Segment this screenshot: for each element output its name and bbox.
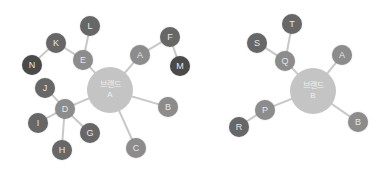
node-m: M (170, 56, 190, 76)
hub-label: A (107, 90, 112, 100)
hub-title: 브랜드 (303, 81, 324, 91)
node-b: B (158, 97, 178, 117)
node-p: P (255, 100, 275, 120)
node-h: H (52, 140, 72, 160)
node-f: F (160, 27, 180, 47)
brand-network-diagram: 브랜드AABCDEFGHIJKLMN브랜드BABQPSTR (0, 0, 388, 174)
node-q: Q (275, 51, 295, 71)
node-b: B (348, 112, 368, 132)
hub-label: B (310, 91, 315, 101)
node-n: N (22, 55, 42, 75)
node-k: K (46, 33, 66, 53)
node-r: R (229, 117, 249, 137)
node-c: C (126, 138, 146, 158)
brand-a-hub: 브랜드A (87, 67, 133, 113)
node-i: I (28, 113, 48, 133)
node-d: D (55, 99, 75, 119)
node-j: J (35, 78, 55, 98)
brand-b-hub: 브랜드B (290, 68, 336, 114)
node-t: T (282, 14, 302, 34)
node-e: E (73, 50, 93, 70)
node-g: G (80, 123, 100, 143)
node-a: A (130, 45, 150, 65)
hub-title: 브랜드 (100, 80, 121, 90)
node-l: L (80, 16, 100, 36)
node-a: A (332, 45, 352, 65)
node-s: S (247, 33, 267, 53)
